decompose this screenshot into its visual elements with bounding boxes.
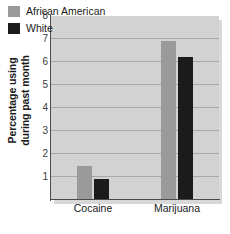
y-axis-title-line-2: during past month	[18, 55, 31, 145]
gridline	[51, 107, 219, 108]
x-axis-tick-label: Cocaine	[74, 203, 113, 214]
legend-swatch-icon	[8, 6, 20, 17]
x-axis-line	[50, 199, 220, 200]
legend-swatch-icon	[8, 23, 20, 34]
y-axis-tick-label: 6	[42, 57, 48, 67]
bar-chart-figure: Percentage using during past month 12345…	[0, 0, 230, 234]
gridline	[51, 153, 219, 154]
y-axis-tick-label: 5	[42, 80, 48, 90]
gridline	[51, 38, 219, 39]
legend-item: White	[8, 22, 105, 35]
legend-label: White	[26, 23, 53, 34]
plot-area	[51, 16, 219, 200]
y-axis-tick-label: 3	[42, 126, 48, 136]
bar	[161, 41, 176, 200]
y-axis-tick-label: 1	[42, 172, 48, 182]
bar	[77, 166, 92, 201]
y-axis-tick-label: 7	[42, 34, 48, 44]
y-axis-line	[50, 15, 51, 201]
legend-item: African American	[8, 5, 105, 18]
gridline	[51, 130, 219, 131]
x-axis-tick-labels: CocaineMarijuana	[51, 203, 219, 223]
y-axis-tick-labels: 12345678	[34, 16, 50, 200]
bar	[94, 179, 109, 200]
y-axis-title-line-1: Percentage using	[6, 55, 19, 145]
y-axis-tick-label: 2	[42, 149, 48, 159]
x-axis-tick-label: Marijuana	[154, 203, 200, 214]
legend: African AmericanWhite	[8, 5, 105, 35]
gridline	[51, 61, 219, 62]
legend-label: African American	[26, 6, 105, 17]
bar	[178, 57, 193, 200]
gridline	[51, 84, 219, 85]
y-axis-tick-label: 4	[42, 103, 48, 113]
